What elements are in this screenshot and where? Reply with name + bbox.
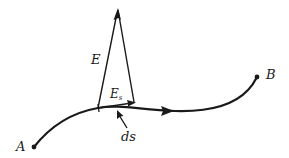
point-b-dot (255, 75, 260, 80)
vector-es-arrowhead-icon (127, 100, 136, 107)
label-vector-es-sub: s (119, 94, 123, 102)
label-vector-es-main: E (110, 87, 119, 101)
label-vector-e: E (91, 53, 101, 66)
ds-pointer-line (119, 115, 127, 128)
label-point-b: B (266, 68, 276, 81)
vector-diagram (0, 0, 289, 158)
point-a-dot (32, 145, 37, 150)
label-vector-es: Es (110, 88, 122, 102)
path-curve-a-to-b (34, 77, 257, 147)
label-point-a: A (16, 140, 25, 153)
label-ds: ds (121, 130, 136, 143)
diagram-canvas: A B E Es ds (0, 0, 289, 158)
